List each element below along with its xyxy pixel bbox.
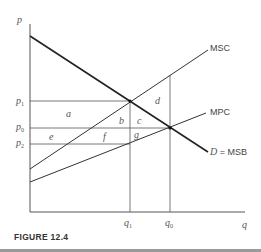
welfare-diagram	[0, 0, 261, 252]
area-g: g	[134, 129, 139, 140]
area-d: d	[155, 95, 160, 106]
mpc-curve	[30, 113, 206, 182]
y-axis-label: p	[17, 14, 22, 25]
area-c: c	[137, 115, 141, 126]
p1-label: p1	[16, 95, 24, 107]
msc-label: MSC	[210, 43, 230, 53]
demand-msb-curve	[30, 36, 208, 152]
area-e: e	[49, 131, 53, 142]
mpc-label: MPC	[210, 107, 230, 117]
q1-label: q1	[124, 217, 132, 229]
area-a: a	[66, 108, 71, 119]
p2-label: p2	[16, 137, 24, 149]
demand-msb-label: D = MSB	[210, 146, 247, 157]
area-b: b	[119, 115, 124, 126]
area-f: f	[103, 131, 106, 142]
x-axis-label: q	[242, 219, 247, 230]
q0-label: q0	[165, 217, 173, 229]
p0-label: p0	[16, 121, 24, 133]
figure-caption: FIGURE 12.4	[14, 232, 68, 242]
msc-curve	[30, 50, 208, 169]
social-optimum-point	[128, 99, 131, 102]
market-equilibrium-point	[168, 126, 171, 129]
